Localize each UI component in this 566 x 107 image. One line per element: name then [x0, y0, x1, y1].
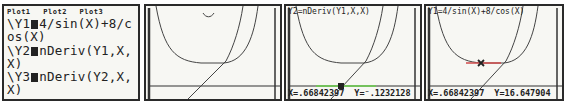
selected-marker-icon [31, 47, 38, 56]
graph-screen [144, 4, 282, 101]
y3-line[interactable]: \Y3nDeriv(Y2,X, [7, 70, 136, 83]
y2-line[interactable]: \Y2nDeriv(Y1,X, [7, 44, 136, 57]
y-value: Y=⁻.1232128 [354, 88, 410, 98]
trace-y1-screen: Y1=4/sin(X)+8/cos(X) X=.66842397Y=16.647… [424, 4, 564, 101]
selected-marker-icon [31, 73, 38, 82]
trace-readout: X=.66842397Y=16.647904 [428, 88, 551, 98]
y3-line-cont: X) [7, 83, 136, 96]
x-value: X=.66842397 [428, 88, 484, 98]
y1-line-cont: os(X) [7, 30, 136, 43]
graph-plot [426, 6, 562, 99]
x-value: X=.66842397 [288, 88, 344, 98]
graph-plot [286, 6, 420, 99]
y2-line-cont: X) [7, 57, 136, 70]
y4-line[interactable]: \Y4= [7, 97, 136, 101]
plot1-toggle[interactable]: Plot1 [7, 8, 31, 16]
cursor-icon [38, 99, 45, 101]
plot3-toggle[interactable]: Plot3 [80, 8, 104, 16]
function-label: Y2=nDeriv(Y1,X,X) [288, 7, 370, 16]
function-label: Y1=4/sin(X)+8/cos(X) [428, 7, 524, 16]
selected-marker-icon [31, 20, 38, 29]
y-equals-editor-screen: Plot1 Plot2 Plot3 \Y14/sin(X)+8/c os(X) … [2, 4, 140, 101]
y1-line[interactable]: \Y14/sin(X)+8/c [7, 17, 136, 30]
trace-y2-screen: Y2=nDeriv(Y1,X,X) X=.66842397Y=⁻.1232128 [284, 4, 422, 101]
graph-plot [146, 6, 280, 99]
y-value: Y=16.647904 [494, 88, 550, 98]
plot2-toggle[interactable]: Plot2 [43, 8, 67, 16]
trace-readout: X=.66842397Y=⁻.1232128 [288, 88, 411, 98]
